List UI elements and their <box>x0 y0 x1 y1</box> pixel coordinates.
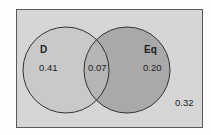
set-d-only-value: 0.41 <box>39 63 58 73</box>
set-eq-label: Eq <box>144 45 157 55</box>
set-d-label: D <box>40 45 47 55</box>
outside-value: 0.32 <box>175 98 194 108</box>
venn-diagram: D 0.41 0.07 Eq 0.20 0.32 <box>0 0 211 135</box>
intersection-value: 0.07 <box>88 63 107 73</box>
set-eq-only-value: 0.20 <box>143 63 162 73</box>
